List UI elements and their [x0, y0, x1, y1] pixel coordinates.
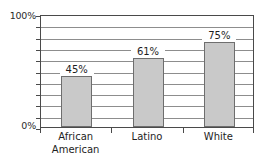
category-label-line: White: [183, 131, 254, 144]
category-label-line: American: [40, 144, 111, 157]
bar: [204, 42, 235, 127]
y-axis-tick: [36, 50, 41, 51]
bar-value-label: 75%: [202, 30, 236, 41]
y-axis-tick: [36, 95, 41, 96]
category-label: AfricanAmerican: [40, 131, 111, 156]
y-axis-max-label: 100%: [0, 10, 36, 21]
y-axis-tick: [36, 106, 41, 107]
bar-value-label: 61%: [131, 46, 165, 57]
category-label-line: Latino: [111, 131, 182, 144]
bar: [133, 58, 164, 127]
y-axis-tick: [36, 84, 41, 85]
bar-chart: 100% 0% 45%61%75% AfricanAmericanLatinoW…: [0, 0, 265, 163]
y-axis-min-label: 0%: [0, 120, 36, 131]
category-label: White: [183, 131, 254, 144]
y-axis-tick: [36, 61, 41, 62]
y-axis-tick: [36, 27, 41, 28]
category-label: Latino: [111, 131, 182, 144]
x-axis-category-labels: AfricanAmericanLatinoWhite: [40, 131, 254, 163]
y-axis-tick: [36, 118, 41, 119]
gridline: [41, 27, 253, 28]
bar-value-label: 45%: [60, 64, 94, 75]
bar: [61, 76, 92, 127]
y-axis-tick: [36, 39, 41, 40]
y-axis-tick: [36, 16, 41, 17]
category-label-line: African: [40, 131, 111, 144]
y-axis-tick: [36, 73, 41, 74]
y-axis-labels: 100% 0%: [0, 0, 36, 163]
